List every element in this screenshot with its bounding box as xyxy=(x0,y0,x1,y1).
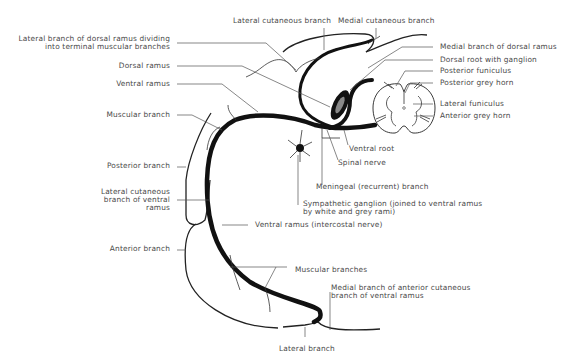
label-medial-cutaneous-branch: Medial cutaneous branch xyxy=(338,17,435,26)
label-lateral-cutaneous-branch: Lateral cutaneous branch xyxy=(233,17,331,26)
label-sympathetic-ganglion-line2: by white and grey rami) xyxy=(303,208,395,217)
label-muscular-branches: Muscular branches xyxy=(295,266,367,275)
label-anterior-grey-horn: Anterior grey horn xyxy=(440,112,511,121)
spinal-cord-section xyxy=(373,82,435,133)
label-ventral-root: Ventral root xyxy=(349,145,394,154)
label-meningeal-branch: Meningeal (recurrent) branch xyxy=(316,183,429,192)
sympathetic-ganglion xyxy=(288,130,312,162)
label-ventral-ramus: Ventral ramus xyxy=(116,80,170,89)
label-lateral-branch-dorsal-ramus-line2: into terminal muscular branches xyxy=(45,43,170,52)
label-lateral-branch: Lateral branch xyxy=(279,345,335,354)
label-lateral-cutaneous-ventral-line3: ramus xyxy=(146,204,170,213)
label-dorsal-root-ganglion: Dorsal root with ganglion xyxy=(440,56,537,65)
label-posterior-grey-horn: Posterior grey horn xyxy=(440,79,514,88)
label-lateral-funiculus: Lateral funiculus xyxy=(440,100,504,109)
label-medial-branch-anterior-cutaneous-line2: branch of ventral ramus xyxy=(331,292,424,301)
label-posterior-branch: Posterior branch xyxy=(107,162,170,171)
label-medial-branch-dorsal-ramus: Medial branch of dorsal ramus xyxy=(440,43,557,52)
label-ventral-ramus-intercostal: Ventral ramus (intercostal nerve) xyxy=(255,221,382,230)
label-spinal-nerve: Spinal nerve xyxy=(338,159,386,168)
label-muscular-branch: Muscular branch xyxy=(106,111,170,120)
label-anterior-branch: Anterior branch xyxy=(110,245,170,254)
label-dorsal-ramus: Dorsal ramus xyxy=(119,62,170,71)
label-posterior-funiculus: Posterior funiculus xyxy=(440,67,511,76)
nerve-trunk xyxy=(207,36,380,322)
